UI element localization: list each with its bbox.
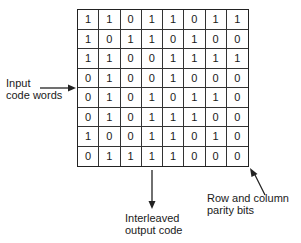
parity-label: Row and column parity bits [207, 192, 289, 216]
output-label-line1: Interleaved [125, 212, 183, 224]
output-arrow-icon [149, 170, 156, 209]
output-label-line2: output code [125, 224, 183, 236]
parity-arrow-icon [250, 168, 265, 195]
input-label-line2: code words [6, 89, 62, 101]
input-label-line1: Input [6, 77, 62, 89]
input-label: Input code words [6, 77, 62, 101]
parity-label-line1: Row and column [207, 192, 289, 204]
output-label: Interleaved output code [125, 212, 183, 236]
parity-label-line2: parity bits [207, 204, 289, 216]
